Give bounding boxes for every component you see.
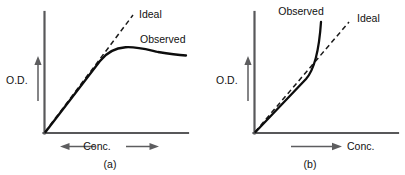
left-arrow-icon — [60, 143, 70, 150]
panel-a-plot: Ideal Observed O.D. Conc. (a) — [0, 0, 203, 175]
panel-a-observed-label: Observed — [140, 33, 186, 45]
panel-a-caption: (a) — [104, 158, 117, 170]
panel-a-ideal-label: Ideal — [139, 8, 162, 20]
panel-b-plot: Observed Ideal O.D. Conc. (b) — [202, 0, 405, 175]
panel-b-conc-arrow-group — [291, 143, 342, 151]
up-arrow-icon — [244, 56, 251, 65]
panel-b-observed-label: Observed — [278, 5, 324, 17]
right-arrow-icon — [332, 143, 342, 151]
panel-a-x-axis-label: Conc. — [83, 140, 110, 152]
panel-a: Ideal Observed O.D. Conc. (a) — [0, 0, 203, 175]
panel-b-x-axis-label: Conc. — [347, 140, 374, 152]
figure-root: Ideal Observed O.D. Conc. (a) — [0, 0, 405, 175]
panel-b-observed-curve — [256, 22, 322, 132]
panel-b: Observed Ideal O.D. Conc. (b) — [202, 0, 405, 175]
up-arrow-icon — [34, 56, 41, 65]
right-arrow-icon — [150, 143, 160, 150]
panel-a-od-arrow-group — [34, 56, 41, 101]
panel-a-observed-curve — [46, 47, 187, 132]
panel-b-y-axis-label: O.D. — [216, 74, 238, 86]
panel-b-caption: (b) — [304, 158, 317, 170]
panel-b-ideal-line — [255, 22, 349, 132]
panel-a-y-axis-label: O.D. — [6, 74, 28, 86]
panel-b-ideal-label: Ideal — [357, 12, 380, 24]
panel-b-od-arrow-group — [244, 56, 251, 101]
